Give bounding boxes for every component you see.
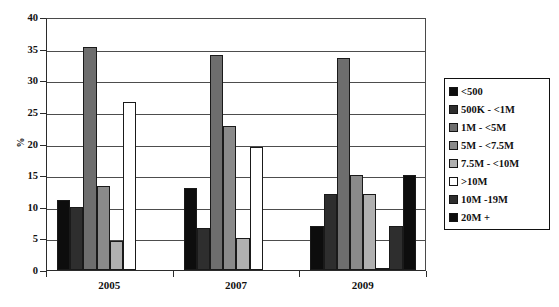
- y-tick-label-25: 25: [14, 108, 38, 118]
- bar-2007-7-5m-10m: [236, 238, 249, 270]
- bar-2005-500: [57, 200, 70, 270]
- legend-label: 5M - <7.5M: [461, 140, 514, 151]
- legend-item-500[interactable]: <500: [449, 82, 546, 100]
- x-tick-label-2005: 2005: [74, 279, 144, 291]
- bar-2007-10m: [250, 147, 263, 270]
- bar-2007-1m-5m: [210, 55, 223, 270]
- x-tick-mark-2: [299, 271, 300, 277]
- legend-label: 7.5M - <10M: [461, 158, 519, 169]
- bar-2009-500k-1m: [324, 194, 337, 270]
- legend-swatch-icon: [449, 105, 458, 114]
- legend-item-10m[interactable]: >10M: [449, 172, 546, 190]
- bar-2009-10m: [376, 268, 389, 270]
- x-tick-label-2009: 2009: [328, 279, 398, 291]
- legend-label: 500K - <1M: [461, 104, 515, 115]
- x-tick-mark-0: [46, 271, 47, 277]
- x-tick-mark-1: [173, 271, 174, 277]
- bar-2007-5m-7-5m: [223, 126, 236, 270]
- legend-item-7-5m-10m[interactable]: 7.5M - <10M: [449, 154, 546, 172]
- bar-2009-1m-5m: [337, 58, 350, 270]
- legend: <500500K - <1M1M - <5M5M - <7.5M7.5M - <…: [444, 78, 550, 230]
- legend-item-10m-19m[interactable]: 10M -19M: [449, 190, 546, 208]
- legend-swatch-icon: [449, 87, 458, 96]
- plot-area: [46, 18, 426, 271]
- legend-label: 20M +: [461, 212, 490, 223]
- bar-2005-500k-1m: [70, 207, 83, 270]
- bar-group-2005: [57, 19, 174, 270]
- y-tick-label-10: 10: [14, 203, 38, 213]
- legend-swatch-icon: [449, 177, 458, 186]
- y-tick-label-20: 20: [14, 140, 38, 150]
- legend-item-5m-7-5m[interactable]: 5M - <7.5M: [449, 136, 546, 154]
- y-tick-label-15: 15: [14, 171, 38, 181]
- y-tick-label-30: 30: [14, 76, 38, 86]
- x-tick-mark-3: [426, 271, 427, 277]
- legend-swatch-icon: [449, 141, 458, 150]
- legend-label: 1M - <5M: [461, 122, 506, 133]
- legend-label: >10M: [461, 176, 487, 187]
- bar-group-2007: [184, 19, 301, 270]
- y-tick-label-5: 5: [14, 234, 38, 244]
- bar-2005-1m-5m: [83, 47, 96, 270]
- y-tick-label-0: 0: [14, 266, 38, 276]
- bar-2009-10m-19m: [389, 226, 402, 270]
- legend-label: <500: [461, 86, 483, 97]
- bar-chart-figure: % 4035302520151050 200520072009 <500500K…: [0, 0, 559, 307]
- legend-swatch-icon: [449, 213, 458, 222]
- legend-item-500k-1m[interactable]: 500K - <1M: [449, 100, 546, 118]
- legend-item-1m-5m[interactable]: 1M - <5M: [449, 118, 546, 136]
- legend-swatch-icon: [449, 195, 458, 204]
- bar-2005-7-5m-10m: [110, 241, 123, 270]
- bar-2009-20m: [403, 175, 416, 270]
- bar-2005-10m: [123, 102, 136, 270]
- legend-label: 10M -19M: [461, 194, 508, 205]
- bars-layer: [47, 19, 425, 270]
- bar-2009-5m-7-5m: [350, 175, 363, 270]
- bar-2007-500: [184, 188, 197, 270]
- bar-2005-5m-7-5m: [97, 186, 110, 270]
- legend-item-20m[interactable]: 20M +: [449, 208, 546, 226]
- legend-swatch-icon: [449, 123, 458, 132]
- y-tick-label-35: 35: [14, 45, 38, 55]
- bar-2009-500: [310, 226, 323, 270]
- x-tick-label-2007: 2007: [201, 279, 271, 291]
- bar-2009-7-5m-10m: [363, 194, 376, 270]
- legend-swatch-icon: [449, 159, 458, 168]
- y-tick-label-40: 40: [14, 13, 38, 23]
- bar-group-2009: [310, 19, 427, 270]
- bar-2007-500k-1m: [197, 228, 210, 270]
